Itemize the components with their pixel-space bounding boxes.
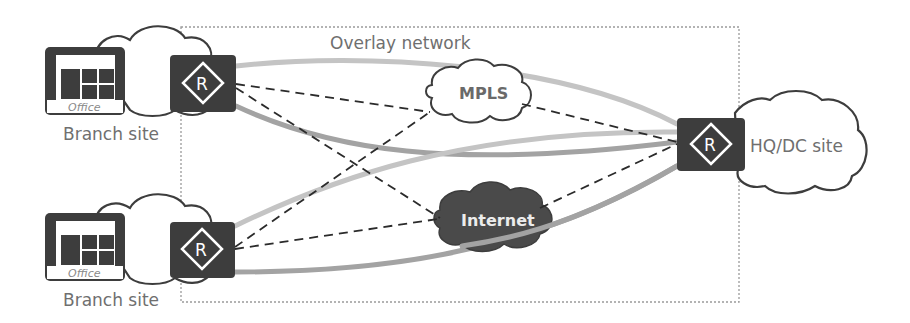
office-icon-bottom: Office (45, 213, 125, 281)
svg-text:R: R (704, 135, 716, 155)
mpls-label: MPLS (459, 84, 508, 103)
office-icon-top: Office (45, 47, 125, 115)
overlay-network-label: Overlay network (330, 33, 471, 53)
internet-label: Internet (461, 211, 535, 230)
router-icon-branch-top: R (170, 55, 236, 112)
hq-site-label: HQ/DC site (750, 136, 843, 156)
svg-text:Office: Office (68, 267, 101, 280)
router-icon-hq: R (677, 118, 745, 171)
network-diagram: Overlay network HQ/DC site MPLS Internet (0, 0, 910, 323)
branch-bottom-label: Branch site (63, 290, 159, 310)
svg-text:R: R (195, 240, 207, 260)
router-icon-branch-bottom: R (170, 222, 235, 278)
branch-top-label: Branch site (63, 124, 159, 144)
svg-text:R: R (196, 74, 208, 94)
svg-text:Office: Office (68, 101, 101, 114)
